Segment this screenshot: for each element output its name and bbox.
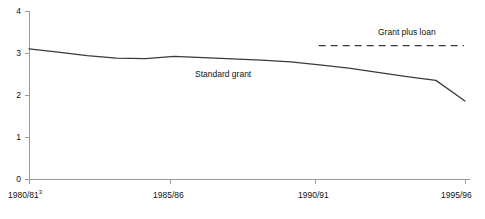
y-axis-label-3: 3 [5, 49, 21, 58]
y-axis-label-0: 0 [5, 175, 21, 184]
x-axis-footnote-superscript: 3 [39, 189, 42, 195]
y-axis-ticks [25, 12, 30, 180]
series-annotation-standard-grant: Standard grant [195, 70, 251, 79]
x-axis-ticks [30, 180, 466, 185]
x-axis-label-1980-81: 1980/813 [8, 191, 42, 200]
y-axis-label-4: 4 [5, 7, 21, 16]
y-axis-label-2: 2 [5, 91, 21, 100]
x-axis-label-1980-81-text: 1980/81 [8, 190, 39, 200]
line-chart: 4 3 2 1 0 1980/813 1985/86 1990/91 1995/… [0, 0, 485, 219]
y-axis-label-1: 1 [5, 133, 21, 142]
x-axis-label-1985-86: 1985/86 [153, 191, 184, 200]
series-annotation-grant-plus-loan: Grant plus loan [378, 28, 436, 37]
x-axis-label-1995-96: 1995/96 [441, 191, 472, 200]
x-axis-label-1990-91: 1990/91 [298, 191, 329, 200]
